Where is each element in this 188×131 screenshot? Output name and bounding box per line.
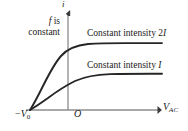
y-axis-label: i [62, 0, 65, 9]
stopping-voltage-tick-label: −V0 [15, 108, 30, 122]
frequency-note-is: is [51, 16, 60, 26]
curve-label-upper-symbol: I [163, 28, 166, 38]
curve-label-lower-symbol: I [158, 60, 161, 70]
curve-intensity-2I [30, 43, 162, 110]
frequency-note-constant: constant [28, 27, 60, 37]
photoelectric-current-voltage-chart: i VAC −V0 O f is constant Constant inten… [0, 0, 188, 131]
stopping-voltage-subscript: 0 [27, 113, 31, 121]
curve-label-upper-text: Constant intensity 2 [87, 28, 163, 38]
frequency-constant-note: f is constant [8, 16, 60, 37]
curve-label-intensity-2I: Constant intensity 2I [87, 28, 166, 39]
origin-label: O [74, 108, 81, 119]
curve-label-lower-text: Constant intensity [87, 60, 158, 70]
x-axis-label-subscript: AC [169, 106, 178, 114]
x-axis-label: VAC [163, 101, 178, 114]
curve-label-intensity-I: Constant intensity I [87, 60, 161, 71]
curve-intensity-I [30, 74, 162, 110]
